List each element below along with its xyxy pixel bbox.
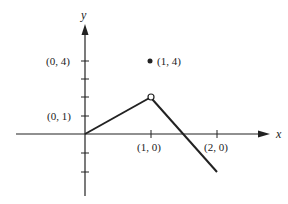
segment-rising <box>85 99 149 135</box>
x-tick-label-1: (1, 0) <box>137 141 161 154</box>
x-axis-label: x <box>275 127 282 141</box>
y-tick-label-1: (0, 1) <box>47 110 71 123</box>
x-axis-arrow-icon <box>258 131 270 138</box>
y-tick-label-4: (0, 4) <box>46 55 70 68</box>
filled-point <box>148 59 153 64</box>
point-label-1-4: (1, 4) <box>157 55 181 68</box>
segment-falling <box>153 100 218 173</box>
y-axis-label: y <box>80 8 87 22</box>
open-point <box>148 94 154 100</box>
function-graph: y x (0, 4) (0, 1) (1, 0) (2, 0) (1, 4) <box>0 0 288 204</box>
y-axis-arrow-icon <box>82 24 89 35</box>
x-tick-label-2: (2, 0) <box>204 141 228 154</box>
